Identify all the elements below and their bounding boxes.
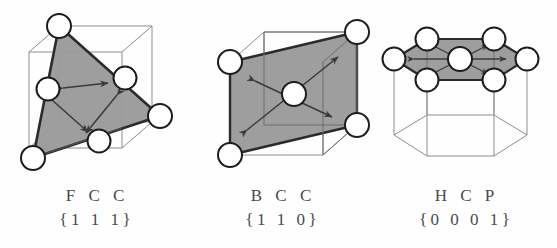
bcc-atom-corner-top-right	[345, 20, 369, 44]
hcp-atom-corner-top-left	[416, 28, 439, 51]
hcp-atom-corner-top-right	[483, 28, 506, 51]
bcc-atom-corner-top-left	[218, 50, 242, 74]
hcp-atoms	[383, 28, 539, 92]
bcc-atom-corner-bottom-left	[218, 143, 242, 167]
bcc-diagram	[186, 0, 376, 185]
hcp-atom-corner-bottom-left	[416, 69, 439, 92]
fcc-panel: F C C {1 1 1}	[0, 0, 190, 248]
fcc-plane-label: {1 1 1}	[0, 210, 190, 230]
bcc-atom-corner-bottom-right	[345, 113, 369, 137]
fcc-structure-label: F C C	[0, 186, 190, 206]
bcc-panel: B C C {1 1 0}	[186, 0, 376, 248]
hcp-diagram	[372, 0, 557, 185]
hcp-atom-corner-bottom-right	[483, 69, 506, 92]
fcc-atom-corner-bottom-left	[21, 146, 45, 170]
hcp-structure-label: H C P	[372, 186, 557, 206]
hcp-panel: H C P {0 0 0 1}	[372, 0, 557, 248]
fcc-atom-face-center-upper-right	[114, 67, 137, 90]
bcc-plane-label: {1 1 0}	[186, 210, 376, 230]
fcc-diagram	[0, 0, 190, 185]
bcc-structure-label: B C C	[186, 186, 376, 206]
bcc-atom-body-center	[282, 82, 306, 106]
fcc-atom-face-center-left	[37, 78, 60, 101]
crystal-slip-systems-figure: F C C {1 1 1}	[0, 0, 557, 248]
fcc-atom-corner-right	[148, 104, 172, 128]
fcc-atom-corner-top	[47, 14, 71, 38]
hcp-atom-corner-left	[383, 48, 406, 71]
hcp-plane-label: {0 0 0 1}	[372, 210, 557, 230]
hcp-atom-corner-right	[516, 48, 539, 71]
hcp-atom-basal-center	[448, 47, 472, 71]
fcc-atom-face-center-bottom	[88, 130, 111, 153]
